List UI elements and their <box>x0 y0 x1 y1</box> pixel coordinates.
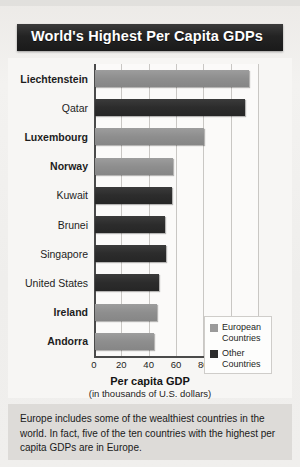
bar-rows: LiechtensteinQatarLuxembourgNorwayKuwait… <box>8 64 292 356</box>
bar-label-ireland: Ireland <box>8 306 88 318</box>
bar-row: Norway <box>8 152 292 181</box>
x-tick-0: 0 <box>91 359 96 370</box>
legend-item-european: European Countries <box>210 322 267 343</box>
legend-item-other: Other Countries <box>210 348 267 369</box>
legend-swatch-other-icon <box>210 350 218 358</box>
bar-label-brunei: Brunei <box>8 219 88 231</box>
bar-norway <box>95 158 173 175</box>
bar-row: Brunei <box>8 210 292 239</box>
bar-label-liechtenstein: Liechtenstein <box>8 73 88 85</box>
legend-label-european: European Countries <box>222 322 267 343</box>
bar-label-andorra: Andorra <box>8 335 88 347</box>
bar-qatar <box>95 99 245 116</box>
caption-box: Europe includes some of the wealthiest c… <box>8 404 292 460</box>
bar-label-singapore: Singapore <box>8 248 88 260</box>
bar-singapore <box>95 245 166 262</box>
scan-edge <box>0 0 300 6</box>
bar-liechtenstein <box>95 70 249 87</box>
legend-label-other: Other Countries <box>222 348 267 369</box>
legend-swatch-european-icon <box>210 324 218 332</box>
bar-row: Singapore <box>8 239 292 268</box>
bar-label-united-states: United States <box>8 277 88 289</box>
x-tick-20: 20 <box>116 359 127 370</box>
x-tick-60: 60 <box>171 359 182 370</box>
x-axis-title: Per capita GDP <box>8 375 292 387</box>
bar-luxembourg <box>95 128 204 145</box>
bar-label-kuwait: Kuwait <box>8 189 88 201</box>
bar-row: Liechtenstein <box>8 64 292 93</box>
caption-text: Europe includes some of the wealthiest c… <box>20 412 280 456</box>
chart-panel: LiechtensteinQatarLuxembourgNorwayKuwait… <box>8 58 292 398</box>
bar-ireland <box>95 304 157 321</box>
bar-kuwait <box>95 187 172 204</box>
bar-label-norway: Norway <box>8 160 88 172</box>
page-title: World's Highest Per Capita GDPs <box>31 28 263 44</box>
bar-brunei <box>95 216 165 233</box>
bar-label-luxembourg: Luxembourg <box>8 131 88 143</box>
bar-row: United States <box>8 268 292 297</box>
chart-legend: European Countries Other Countries <box>204 316 272 374</box>
bar-row: Qatar <box>8 93 292 122</box>
chart-title-banner: World's Highest Per Capita GDPs <box>17 24 283 51</box>
x-axis-subtitle: (in thousands of U.S. dollars) <box>8 388 292 399</box>
bar-andorra <box>95 333 154 350</box>
bar-row: Luxembourg <box>8 122 292 151</box>
bar-united-states <box>95 274 159 291</box>
x-tick-40: 40 <box>143 359 154 370</box>
bar-row: Kuwait <box>8 181 292 210</box>
bar-label-qatar: Qatar <box>8 102 88 114</box>
